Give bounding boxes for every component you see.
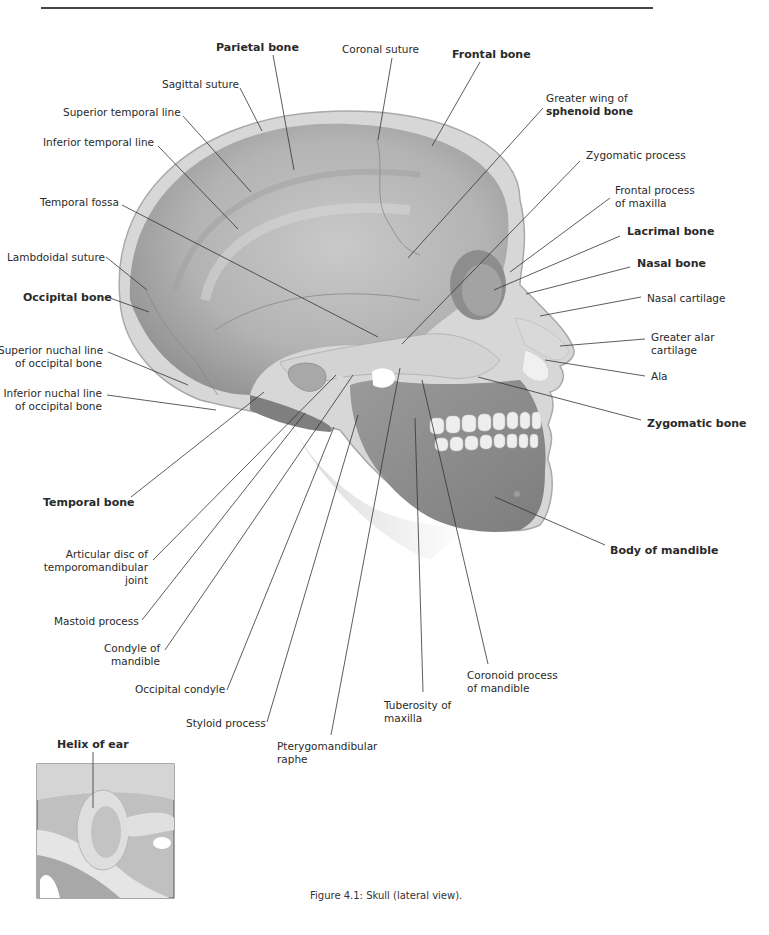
label-line: Tuberosity of [384,699,451,712]
label-line: Inferior temporal line [43,136,154,149]
label-line: Pterygomandibular [277,740,377,753]
label-line: Occipital condyle [135,683,225,696]
label-zygomatic-bone: Zygomatic bone [647,417,747,430]
label-line: Lacrimal bone [627,225,714,238]
label-temporal-bone: Temporal bone [43,496,135,509]
leader-styloid-process [267,415,358,722]
label-line: Coronoid process [467,669,558,682]
label-inferior-nuchal-line: Inferior nuchal lineof occipital bone [2,387,102,413]
label-frontal-process-maxilla: Frontal processof maxilla [615,184,695,210]
mental-foramen [514,491,520,497]
label-line: Articular disc of [40,548,148,561]
label-line: Zygomatic process [586,149,686,162]
label-greater-wing-sphenoid: Greater wing ofsphenoid bone [546,92,633,118]
label-line: raphe [277,753,377,766]
label-coronoid-process: Coronoid processof mandible [467,669,558,695]
label-line: sphenoid bone [546,105,633,118]
label-line: Frontal bone [452,48,531,61]
ear-inset [37,764,174,898]
leader-occipital-condyle [227,427,334,690]
label-occipital-condyle: Occipital condyle [135,683,225,696]
label-lambdoidal-suture: Lambdoidal suture [7,251,105,264]
label-line: Inferior nuchal line [2,387,102,400]
label-mastoid-process: Mastoid process [54,615,139,628]
leader-greater-alar-cartilage [560,339,645,346]
label-zygomatic-process: Zygomatic process [586,149,686,162]
label-line: Greater wing of [546,92,633,105]
label-line: of mandible [467,682,558,695]
leader-nasal-bone [526,267,630,294]
label-lacrimal-bone: Lacrimal bone [627,225,714,238]
label-pterygomandibular-raphe: Pterygomandibularraphe [277,740,377,766]
label-superior-nuchal-line: Superior nuchal lineof occipital bone [0,344,102,370]
label-line: Superior nuchal line [0,344,102,357]
label-line: Body of mandible [610,544,718,557]
label-nasal-cartilage: Nasal cartilage [647,292,725,305]
figure-caption: Figure 4.1: Skull (lateral view). [310,890,462,901]
label-line: cartilage [651,344,714,357]
label-superior-temporal-line: Superior temporal line [63,106,181,119]
label-line: mandible [104,655,160,668]
label-tuberosity-of-maxilla: Tuberosity ofmaxilla [384,699,451,725]
label-line: Condyle of [104,642,160,655]
label-line: Temporal bone [43,496,135,509]
label-line: of occipital bone [0,357,102,370]
label-sagittal-suture: Sagittal suture [162,78,239,91]
label-greater-alar-cartilage: Greater alarcartilage [651,331,714,357]
mandible [350,380,546,532]
label-line: Coronal suture [342,43,419,56]
label-articular-disc-tmj: Articular disc oftemporomandibularjoint [40,548,148,587]
label-line: Parietal bone [216,41,299,54]
leader-mastoid-process [142,413,305,620]
label-line: Sagittal suture [162,78,239,91]
label-condyle-of-mandible: Condyle ofmandible [104,642,160,668]
label-line: Mastoid process [54,615,139,628]
label-line: of occipital bone [2,400,102,413]
label-line: Temporal fossa [40,196,119,209]
label-line: of maxilla [615,197,695,210]
label-ala: Ala [651,370,668,383]
label-line: Nasal bone [637,257,706,270]
label-frontal-bone: Frontal bone [452,48,531,61]
label-line: Ala [651,370,668,383]
label-line: Superior temporal line [63,106,181,119]
label-line: Zygomatic bone [647,417,747,430]
label-line: Frontal process [615,184,695,197]
label-line: Occipital bone [23,291,112,304]
label-occipital-bone: Occipital bone [23,291,112,304]
label-coronal-suture: Coronal suture [342,43,419,56]
label-line: Greater alar [651,331,714,344]
label-line: Styloid process [186,717,266,730]
label-helix-of-ear: Helix of ear [57,738,129,751]
label-line: joint [40,574,148,587]
leader-condyle-of-mandible [165,375,353,650]
label-inferior-temporal-line: Inferior temporal line [43,136,154,149]
label-nasal-bone: Nasal bone [637,257,706,270]
leader-nasal-cartilage [540,297,641,316]
label-line: temporomandibular [40,561,148,574]
label-temporal-fossa: Temporal fossa [40,196,119,209]
label-parietal-bone: Parietal bone [216,41,299,54]
label-line: Nasal cartilage [647,292,725,305]
label-line: maxilla [384,712,451,725]
label-styloid-process: Styloid process [186,717,266,730]
label-body-of-mandible: Body of mandible [610,544,718,557]
label-line: Lambdoidal suture [7,251,105,264]
